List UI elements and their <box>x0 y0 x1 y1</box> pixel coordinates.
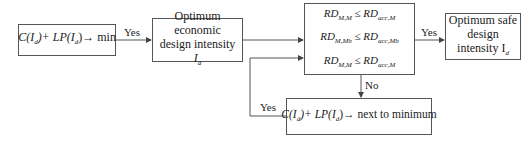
lhs: RD <box>320 30 335 42</box>
economic-intensity-box: Optimum economic design intensity Id <box>152 18 243 62</box>
safe-intensity-box: Optimum safe design intensity Id <box>445 13 521 60</box>
check-row-3: RDM,M ≤ RDacc,M <box>324 51 396 74</box>
edge-label-yes-1: Yes <box>124 26 140 38</box>
lhs: RD <box>324 7 339 19</box>
rhs: RD <box>363 7 378 19</box>
rhs: RD <box>363 54 378 66</box>
target-text: next to minimum <box>357 108 436 120</box>
arrow-icon: → <box>343 108 355 120</box>
edge-label-no: No <box>365 79 378 91</box>
arrow-icon: → <box>82 30 94 44</box>
expr-lp: )+ LP(I <box>38 30 75 44</box>
economic-line-1: Optimum economic <box>153 9 242 37</box>
subscript: M,Mb <box>335 38 352 46</box>
leq-icon: ≤ <box>355 54 361 66</box>
subscript: acc,M <box>378 61 395 69</box>
subscript: M,M <box>338 14 351 22</box>
expr-lp: )+ LP(I <box>300 108 336 120</box>
objective-min-box: C(Id)+ LP(Id)→ min <box>18 24 116 56</box>
subscript: M,M <box>338 61 351 69</box>
leq-icon: ≤ <box>355 30 361 42</box>
lhs: RD <box>324 54 339 66</box>
check-row-1: RDM,M ≤ RDacc,M <box>324 4 396 27</box>
edge-label-yes-loop: Yes <box>260 101 276 113</box>
subscript: acc,Mb <box>378 38 399 46</box>
reliability-check-box: RDM,M ≤ RDacc,M RDM,Mb ≤ RDacc,Mb RDM,M … <box>304 3 415 75</box>
economic-line-2: design intensity <box>160 37 236 51</box>
subscript: acc,M <box>378 14 395 22</box>
next-to-minimum-box: C(Id)+ LP(Id)→ next to minimum <box>286 98 432 135</box>
safe-line-1: Optimum safe <box>449 13 517 27</box>
edge-label-yes-2: Yes <box>421 26 437 38</box>
subscript: d <box>505 49 509 57</box>
target-text: min <box>97 30 116 44</box>
safe-line-2: design <box>467 27 498 41</box>
check-row-2: RDM,Mb ≤ RDacc,Mb <box>320 27 399 50</box>
rhs: RD <box>363 30 378 42</box>
expr-c: C(I <box>18 30 34 44</box>
safe-line-3: intensity I <box>457 41 505 55</box>
leq-icon: ≤ <box>355 7 361 19</box>
expr-c: C(I <box>281 108 296 120</box>
subscript: d <box>198 60 202 68</box>
